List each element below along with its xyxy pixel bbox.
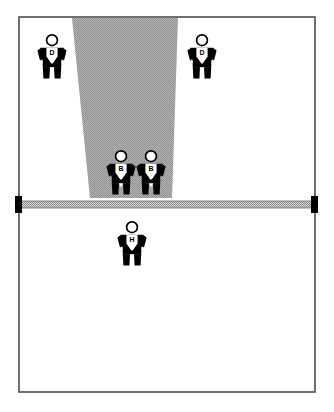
player-role-label: D [49,49,54,56]
player-role-label: B [118,165,123,172]
player-role-label: B [148,165,153,172]
net-post-right [311,196,318,213]
player-role-label: D [199,49,204,56]
net-band [19,201,315,208]
court-canvas: DDBBH [0,0,334,412]
net-post-left [15,196,22,213]
volleyball-court-diagram: DDBBH [0,0,334,412]
player-role-label: H [129,236,134,243]
